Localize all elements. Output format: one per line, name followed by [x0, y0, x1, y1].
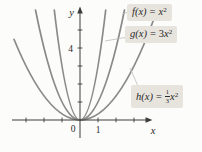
- y-axis-label: y: [68, 7, 74, 18]
- f-expression-exponent: 2: [163, 6, 167, 14]
- x-tick-label-1: 1: [96, 125, 101, 135]
- f-equation-label: f(x)=x2: [127, 4, 172, 21]
- g-equation-label: g(x)=3x2: [125, 26, 177, 43]
- y-tick-label-4: 4: [68, 44, 73, 54]
- x-axis-arrow-icon: [146, 117, 153, 123]
- y-axis-arrow-icon: [77, 7, 83, 14]
- f-equals-sign: =: [150, 6, 156, 17]
- g-func-text: g(x): [130, 28, 147, 39]
- h-equals-sign: =: [156, 91, 162, 102]
- plot-canvas: y x 4 0 1: [0, 0, 202, 152]
- h-label-leader-line: [130, 68, 138, 86]
- g-equals-sign: =: [150, 28, 156, 39]
- h-func-text: h(x): [136, 91, 153, 102]
- origin-label: 0: [71, 124, 76, 134]
- f-func-text: f(x): [132, 6, 147, 17]
- function-graph-figure: y x 4 0 1 f(x)=x2 g(x)=3x2 h(x)=13x2: [0, 0, 202, 152]
- h-equation-label: h(x)=13x2: [131, 85, 183, 108]
- x-axis-label: x: [150, 125, 156, 136]
- g-expression-exponent: 2: [169, 28, 173, 36]
- h-expression-exponent: 2: [175, 91, 179, 99]
